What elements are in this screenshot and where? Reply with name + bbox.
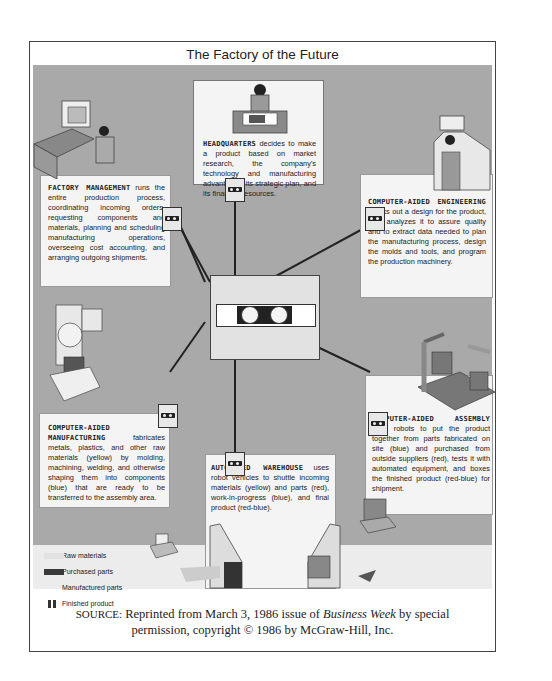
figure-frame: The Factory of the Future HEADQUARTERS d… [29,41,496,652]
terminal-warehouse [225,452,245,476]
caa-heading: COMPUTER-AIDED ASSEMBLY [372,415,490,423]
headquarters-heading: HEADQUARTERS [203,140,256,148]
factory-management-heading: FACTORY MANAGEMENT [48,184,130,192]
tape-reel-icon [241,306,259,324]
cam-machine-illustration [42,297,112,407]
copyright-line: permission, copyright © 1986 by McGraw-H… [132,623,394,637]
cae-heading: COMPUTER-AIDED ENGINEERING [368,198,486,206]
robot-assembly-line-illustration [410,332,500,412]
cae-description: cranks out a design for the product, the… [368,207,486,266]
purchased-parts-swatch [44,569,64,575]
caa-description: uses robots to put the product together … [372,424,490,493]
warehouse-docks-illustration [180,522,380,592]
cam-description: fabricates metals, plastics, and other r… [48,433,165,502]
terminal-cae [365,207,385,231]
tape-drive-panel [216,304,316,327]
source-label: SOURCE: [76,608,122,620]
tape-reel-icon [270,306,288,324]
raw-materials-swatch [44,553,64,559]
legend-item-raw-materials: Raw materials [62,552,106,559]
headquarters-panel: HEADQUARTERS decides to make a product b… [193,80,324,185]
raw-material-vehicle-illustration [150,532,180,562]
legend-item-purchased-parts: Purchased parts [62,568,113,575]
terminal-cam [158,404,178,428]
central-computer-hub [210,275,320,360]
factory-management-description: runs the entire production process, coor… [48,183,165,262]
terminal-factory-management [162,207,182,231]
factory-management-workstation-illustration [32,99,122,179]
computer-aided-manufacturing-panel: COMPUTER-AIDED MANUFACTURING fabricates … [39,413,170,508]
cam-heading: COMPUTER-AIDED MANUFACTURING [48,424,110,442]
cae-workstation-illustration [430,112,495,192]
computer-aided-engineering-panel: COMPUTER-AIDED ENGINEERING cranks out a … [360,174,493,298]
source-caption: SOURCE: Reprinted from March 3, 1986 iss… [30,606,495,638]
robot-vehicle-illustration [358,497,398,537]
publication-name: Business Week [323,607,396,621]
legend-item-manufactured-parts: Manufactured parts [62,584,122,591]
terminal-caa [368,412,388,436]
terminal-headquarters [225,178,245,202]
factory-management-panel: FACTORY MANAGEMENT runs the entire produ… [40,175,171,287]
executive-desk-illustration [229,83,291,138]
